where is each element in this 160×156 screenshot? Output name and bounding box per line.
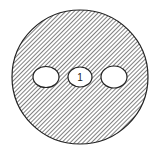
right-hole <box>101 66 127 88</box>
center-hole-label: 1 <box>77 72 83 83</box>
left-hole <box>33 67 59 88</box>
diagram-canvas: 1 <box>0 0 160 156</box>
